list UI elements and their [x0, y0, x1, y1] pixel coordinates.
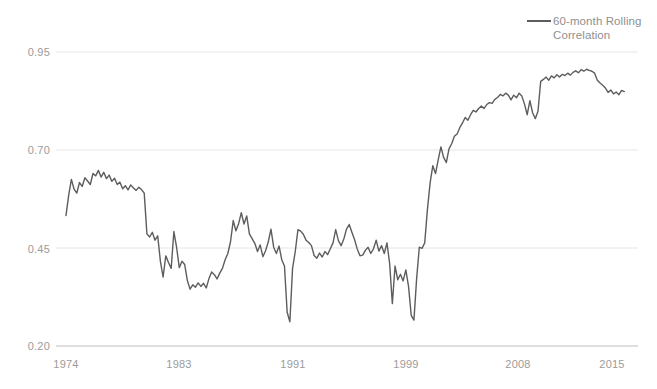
series-line-60-month-rolling-correlation	[66, 69, 624, 321]
x-tick-label-1999: 1999	[376, 359, 436, 370]
y-tick-label-0: 0.95	[8, 47, 50, 58]
y-tick-label-3: 0.20	[8, 341, 50, 352]
legend-entry-60-month-rolling-correlation: 60-month Rolling Correlation	[527, 14, 647, 42]
gridlines	[56, 52, 638, 346]
x-tick-label-2008: 2008	[488, 359, 548, 370]
legend-label-line-1: 60-month Rolling	[553, 15, 642, 27]
chart-legend: 60-month Rolling Correlation	[527, 14, 647, 42]
chart-plot-area	[0, 0, 657, 389]
x-tick-label-2015: 2015	[582, 359, 642, 370]
y-tick-label-1: 0.70	[8, 145, 50, 156]
legend-label-line-2: Correlation	[553, 29, 610, 41]
y-tick-label-2: 0.45	[8, 244, 50, 255]
legend-line-swatch-icon	[527, 20, 551, 22]
rolling-correlation-chart: 0.95 0.70 0.45 0.20 1974 1983 1991 1999 …	[0, 0, 657, 389]
x-tick-label-1991: 1991	[263, 359, 323, 370]
legend-label: 60-month Rolling Correlation	[553, 14, 642, 42]
x-tick-label-1974: 1974	[36, 359, 96, 370]
x-tick-label-1983: 1983	[149, 359, 209, 370]
